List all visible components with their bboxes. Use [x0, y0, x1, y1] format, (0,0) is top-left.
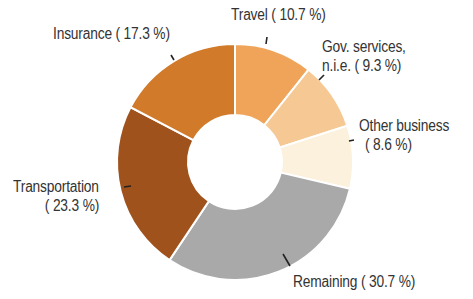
leader-insurance	[171, 55, 174, 60]
label-other-line1: Other business	[359, 116, 449, 135]
label-travel-text: Travel ( 10.7 %)	[231, 5, 326, 24]
label-remaining: Remaining ( 30.7 %)	[293, 272, 415, 291]
label-transport-line1: Transportation	[13, 177, 99, 196]
label-travel: Travel ( 10.7 %)	[231, 5, 326, 24]
leader-transportation	[124, 186, 131, 187]
label-other-business: Other business ( 8.6 %)	[359, 116, 449, 154]
donut-slices	[117, 44, 353, 280]
label-remaining-text: Remaining ( 30.7 %)	[293, 272, 415, 291]
label-gov-line1: Gov. services,	[322, 37, 406, 56]
label-insurance: Insurance ( 17.3 %)	[53, 24, 170, 43]
label-other-line2: ( 8.6 %)	[359, 135, 449, 154]
leader-gov	[319, 75, 324, 80]
label-gov-line2: n.i.e. ( 9.3 %)	[322, 56, 406, 75]
label-transportation: Transportation ( 23.3 %)	[13, 177, 99, 215]
label-insurance-text: Insurance ( 17.3 %)	[53, 24, 170, 43]
label-transport-line2: ( 23.3 %)	[13, 196, 99, 215]
leader-other	[349, 140, 354, 141]
label-gov-services: Gov. services, n.i.e. ( 9.3 %)	[322, 37, 406, 75]
leader-travel	[266, 37, 267, 44]
